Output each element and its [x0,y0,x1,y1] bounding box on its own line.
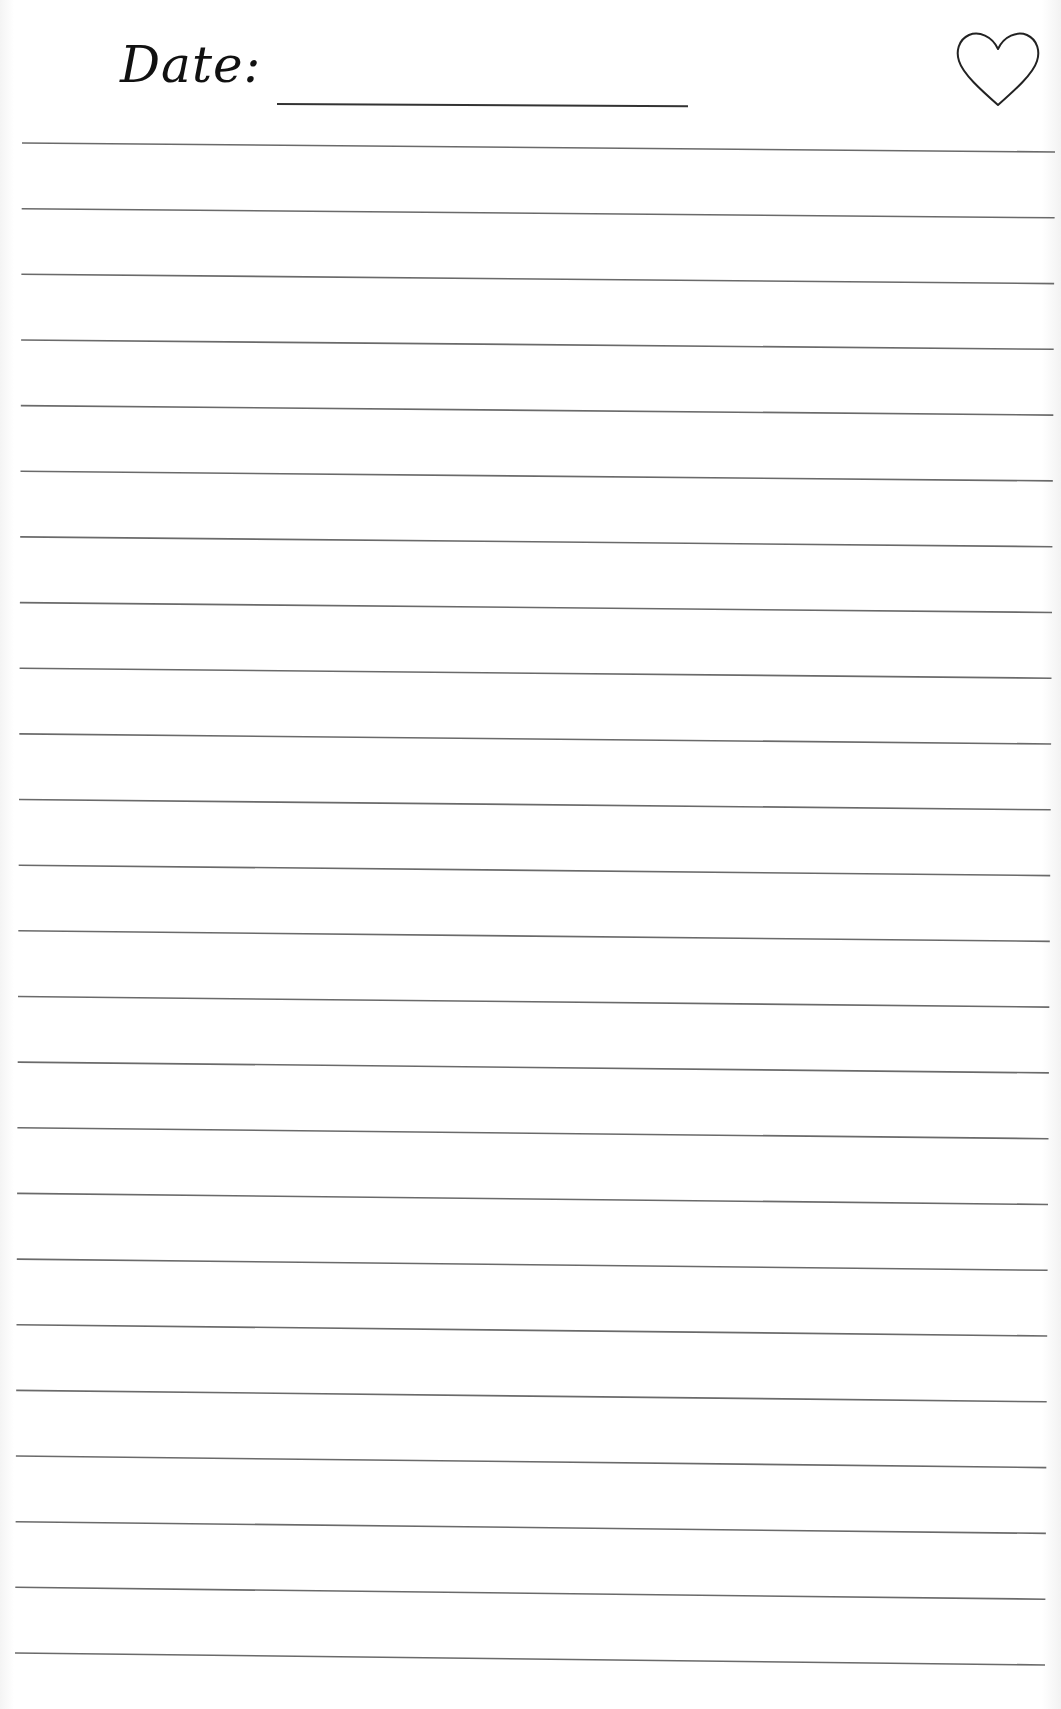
writing-line[interactable] [18,997,1049,1008]
writing-line[interactable] [19,865,1051,875]
writing-line[interactable] [17,1128,1048,1139]
writing-line[interactable] [15,1653,1045,1665]
writing-line[interactable] [17,1193,1048,1204]
writing-line[interactable] [22,143,1055,152]
writing-line[interactable] [19,734,1051,744]
journal-page: Date: [0,0,1061,1709]
writing-line[interactable] [21,340,1054,349]
writing-line[interactable] [20,537,1052,547]
writing-line[interactable] [22,209,1055,218]
writing-line[interactable] [21,274,1054,283]
writing-line[interactable] [18,931,1050,942]
writing-line[interactable] [15,1587,1045,1599]
writing-line[interactable] [21,406,1054,416]
writing-line[interactable] [16,1456,1046,1468]
writing-line[interactable] [17,1259,1048,1270]
writing-line[interactable] [20,603,1052,613]
writing-line[interactable] [17,1325,1048,1336]
ruled-lines [0,0,1061,1709]
writing-line[interactable] [16,1390,1047,1401]
writing-line[interactable] [21,471,1053,481]
writing-line[interactable] [19,800,1051,810]
writing-line[interactable] [16,1522,1046,1534]
writing-line[interactable] [18,1062,1049,1073]
writing-line[interactable] [20,668,1052,678]
